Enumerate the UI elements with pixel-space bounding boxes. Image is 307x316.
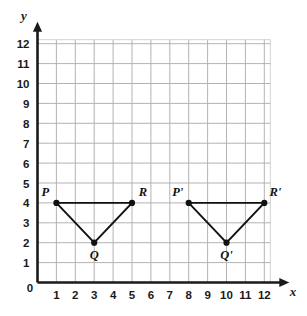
y-axis-arrowhead [33,22,42,32]
x-tick-label: 12 [258,289,271,301]
coordinate-plane-figure: 123456789101112123456789101112 PQRP'Q'R'… [0,0,307,316]
vertex-label: R [138,185,147,199]
vertex-point [91,240,97,246]
y-tick-label: 9 [23,98,29,110]
vertex-point [186,200,192,206]
y-tick-label: 11 [17,58,30,70]
x-tick-label: 3 [91,289,97,301]
vertex-label: R' [268,185,281,199]
origin-label: 0 [27,282,33,294]
axis-lines [33,22,289,287]
y-tick-label: 2 [23,237,29,249]
y-axis-label: y [19,8,27,23]
x-tick-label: 2 [72,289,78,301]
y-tick-label: 7 [23,138,29,150]
axis-titles: y x 0 [19,8,297,299]
x-tick-label: 6 [148,289,154,301]
x-tick-label: 4 [110,289,117,301]
vertex-label: Q' [220,248,233,262]
grid-lines [38,40,271,283]
y-tick-label: 4 [23,197,30,209]
x-tick-label: 5 [129,289,136,301]
vertex-point [261,200,267,206]
y-tick-label: 8 [23,118,30,130]
vertex-point [129,200,135,206]
x-axis-label: x [289,284,297,299]
vertex-point [53,200,59,206]
x-axis-arrowhead [279,278,289,287]
y-tick-label: 10 [17,78,30,90]
y-tick-label: 5 [23,178,30,190]
y-tick-label: 6 [23,158,29,170]
x-tick-label: 10 [220,289,233,301]
vertex-label: P [42,185,50,199]
y-tick-label: 1 [23,257,30,269]
x-tick-label: 7 [167,289,173,301]
y-tick-label: 3 [23,217,29,229]
x-tick-label: 11 [239,289,252,301]
y-tick-label: 12 [17,38,30,50]
vertex-point [223,240,229,246]
x-tick-label: 8 [185,289,192,301]
x-tick-label: 1 [53,289,60,301]
vertex-label: P' [172,185,184,199]
x-tick-label: 9 [204,289,210,301]
vertex-label: Q [90,248,99,262]
